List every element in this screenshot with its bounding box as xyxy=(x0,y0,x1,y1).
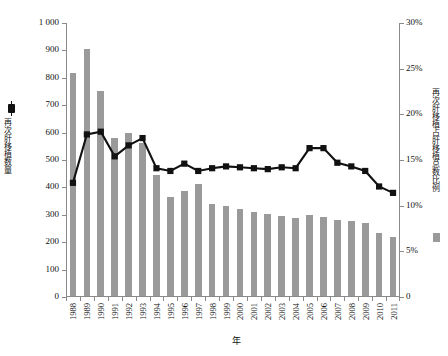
line-marker-1994 xyxy=(153,165,159,171)
y-tick-right xyxy=(400,23,404,24)
y-tick-right xyxy=(400,160,404,161)
x-tick-label-2004: 2004 xyxy=(291,303,300,320)
y-tick-label-left: 500 xyxy=(19,154,59,164)
x-tick-label-2003: 2003 xyxy=(277,303,286,320)
line-marker-1991 xyxy=(112,153,118,159)
line-marker-2006 xyxy=(320,145,326,151)
line-marker-1999 xyxy=(223,163,229,169)
x-tick-label-2009: 2009 xyxy=(361,303,370,320)
y-tick-label-left: 700 xyxy=(19,99,59,109)
x-tick xyxy=(330,297,331,301)
legend-line-marker-icon xyxy=(8,104,15,113)
y-tick-label-left: 400 xyxy=(19,181,59,191)
x-tick xyxy=(136,297,137,301)
x-tick xyxy=(163,297,164,301)
x-tick xyxy=(233,297,234,301)
x-tick-label-1996: 1996 xyxy=(180,303,189,320)
legend-bar-swatch-icon xyxy=(433,233,440,242)
x-tick xyxy=(386,297,387,301)
x-tick-label-1995: 1995 xyxy=(166,303,175,320)
x-tick xyxy=(108,297,109,301)
x-tick-label-1992: 1992 xyxy=(124,303,133,320)
x-tick-label-1997: 1997 xyxy=(194,303,203,320)
x-tick-label-1990: 1990 xyxy=(96,303,105,320)
y-tick-right xyxy=(400,69,404,70)
line-marker-1997 xyxy=(195,168,201,174)
y-tick-label-right: 5% xyxy=(406,245,446,255)
line-marker-1993 xyxy=(139,135,145,141)
x-tick-label-2007: 2007 xyxy=(333,303,342,320)
line-marker-1988 xyxy=(70,180,76,186)
x-tick-label-1999: 1999 xyxy=(222,303,231,320)
y-tick-label-right: 30% xyxy=(406,17,446,27)
line-marker-2002 xyxy=(265,166,271,172)
y-tick-left xyxy=(62,270,66,271)
y-tick-label-left: 200 xyxy=(19,236,59,246)
x-tick-label-1994: 1994 xyxy=(152,303,161,320)
x-tick-label-2010: 2010 xyxy=(375,303,384,320)
line-marker-2009 xyxy=(362,168,368,174)
x-tick-label-2000: 2000 xyxy=(235,303,244,320)
line-marker-2003 xyxy=(279,164,285,170)
x-tick xyxy=(317,297,318,301)
y-tick-left xyxy=(62,160,66,161)
chart-container: 再次肝移植数量 再次肝移植占肝移植总数比例 年 0100200300400500… xyxy=(0,0,448,356)
x-tick xyxy=(150,297,151,301)
line-marker-1989 xyxy=(84,131,90,137)
x-tick xyxy=(261,297,262,301)
line-marker-2004 xyxy=(293,165,299,171)
line-path xyxy=(73,132,393,193)
x-tick xyxy=(191,297,192,301)
line-markers xyxy=(70,129,396,196)
x-tick xyxy=(303,297,304,301)
y-tick-left xyxy=(62,105,66,106)
line-marker-2005 xyxy=(306,145,312,151)
y-tick-left xyxy=(62,78,66,79)
x-tick xyxy=(344,297,345,301)
x-axis-title: 年 xyxy=(232,334,241,347)
x-tick-label-2011: 2011 xyxy=(389,303,398,320)
y-tick-left xyxy=(62,242,66,243)
x-tick-label-1998: 1998 xyxy=(208,303,217,320)
x-tick xyxy=(122,297,123,301)
x-tick-label-1991: 1991 xyxy=(110,303,119,320)
y-tick-label-right: 10% xyxy=(406,200,446,210)
y-tick-right xyxy=(400,206,404,207)
x-tick-label-2005: 2005 xyxy=(305,303,314,320)
y-tick-left xyxy=(62,215,66,216)
y-tick-left xyxy=(62,23,66,24)
line-marker-1992 xyxy=(126,142,132,148)
y-tick-label-left: 300 xyxy=(19,209,59,219)
x-tick xyxy=(177,297,178,301)
y-tick-right xyxy=(400,297,404,298)
x-tick xyxy=(275,297,276,301)
line-marker-2000 xyxy=(237,164,243,170)
x-tick-label-2008: 2008 xyxy=(347,303,356,320)
y-tick-label-left: 900 xyxy=(19,44,59,54)
x-tick xyxy=(219,297,220,301)
x-tick-label-1988: 1988 xyxy=(68,303,77,320)
y-tick-label-right: 15% xyxy=(406,154,446,164)
x-tick xyxy=(358,297,359,301)
line-marker-2007 xyxy=(334,160,340,166)
x-tick xyxy=(66,297,67,301)
line-marker-2010 xyxy=(376,183,382,189)
x-tick xyxy=(289,297,290,301)
y-axis-left-title: 再次肝移植数量 xyxy=(2,118,11,174)
y-tick-left xyxy=(62,133,66,134)
y-tick-left xyxy=(62,50,66,51)
plot-area: 01002003004005006007008009001 000 05%10%… xyxy=(66,23,400,297)
y-tick-label-left: 1 000 xyxy=(19,17,59,27)
y-tick-right xyxy=(400,251,404,252)
line-marker-1996 xyxy=(181,161,187,167)
x-tick xyxy=(399,297,400,301)
y-tick-label-left: 800 xyxy=(19,72,59,82)
y-tick-label-left: 0 xyxy=(19,291,59,301)
y-axis-right-title: 再次肝移植占肝移植总数比例 xyxy=(430,88,439,192)
y-tick-label-left: 100 xyxy=(19,264,59,274)
line-marker-2008 xyxy=(348,163,354,169)
line-marker-1995 xyxy=(167,168,173,174)
x-tick xyxy=(205,297,206,301)
x-tick-label-2001: 2001 xyxy=(249,303,258,320)
x-tick xyxy=(80,297,81,301)
